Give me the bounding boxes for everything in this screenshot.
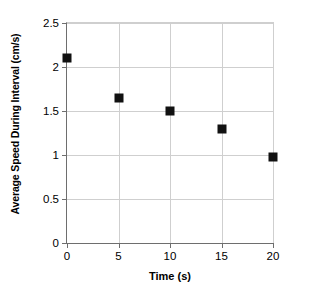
y-axis-tick: [62, 67, 67, 68]
plot-area: 00.511.522.505101520: [66, 22, 274, 244]
chart-title-remnant: [0, 0, 310, 9]
x-axis-tick: [222, 243, 223, 248]
y-axis-tick-label: 0.5: [43, 193, 59, 205]
x-axis-tick-label: 10: [164, 250, 177, 262]
x-axis-tick-label: 0: [64, 250, 70, 262]
y-axis-tick: [62, 111, 67, 112]
x-axis-tick: [119, 243, 120, 248]
data-point-marker: [217, 124, 226, 133]
data-point-marker: [269, 152, 278, 161]
x-axis-tick-label: 20: [267, 250, 280, 262]
x-axis-tick: [170, 243, 171, 248]
y-axis-tick: [62, 23, 67, 24]
x-axis-tick: [273, 243, 274, 248]
speed-vs-time-chart: Average Speed During Interval (cm/s) 00.…: [0, 0, 310, 293]
data-point-marker: [114, 93, 123, 102]
y-axis-tick-label: 1.5: [43, 105, 59, 117]
x-axis-tick: [67, 243, 68, 248]
gridline-vertical: [170, 23, 171, 243]
y-axis-tick-label: 2: [53, 61, 59, 73]
x-axis-title: Time (s): [66, 270, 274, 282]
y-axis-tick-label: 2.5: [43, 17, 59, 29]
gridline-vertical: [119, 23, 120, 243]
x-axis-tick-label: 15: [215, 250, 228, 262]
data-point-marker: [166, 107, 175, 116]
y-axis-title: Average Speed During Interval (cm/s): [9, 5, 21, 243]
y-axis-tick: [62, 199, 67, 200]
data-point-marker: [63, 54, 72, 63]
y-axis-tick-label: 0: [53, 237, 59, 249]
x-axis-tick-label: 5: [115, 250, 121, 262]
y-axis-tick: [62, 155, 67, 156]
y-axis-tick-label: 1: [53, 149, 59, 161]
